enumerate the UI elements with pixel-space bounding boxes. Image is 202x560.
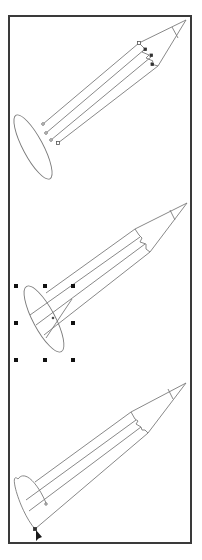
anchor-point[interactable] <box>138 42 141 45</box>
anchor-point[interactable] <box>57 142 60 145</box>
pencil-zigzag-edge <box>135 229 150 252</box>
pencil-body-line-3 <box>36 244 145 325</box>
ellipse-center-point[interactable] <box>52 317 54 319</box>
anchor-point[interactable] <box>50 139 53 142</box>
anchor-point-selected[interactable] <box>150 54 153 57</box>
pencil-body-line-3 <box>51 57 151 140</box>
pencil-body-line-2 <box>46 49 145 133</box>
selection-handle-bottom-right[interactable] <box>71 358 75 362</box>
pencil-lead-line <box>172 27 178 38</box>
pencil-tip-outline <box>135 203 187 252</box>
selection-handle-top-center[interactable] <box>43 284 47 288</box>
anchor-point-selected[interactable] <box>144 48 147 51</box>
trimmed-ellipse-path[interactable] <box>14 476 46 529</box>
selection-handle-bottom-center[interactable] <box>43 358 47 362</box>
anchor-point[interactable] <box>45 132 48 135</box>
anchor-point[interactable] <box>45 503 47 505</box>
drawing-canvas[interactable] <box>0 0 202 560</box>
pencil-step-3[interactable] <box>14 383 186 541</box>
anchor-point-selected[interactable] <box>151 63 154 66</box>
direct-selection-cursor-icon <box>36 530 42 541</box>
anchor-point-selected[interactable] <box>34 528 37 531</box>
anchor-point[interactable] <box>42 123 45 126</box>
pencil-body-line-3 <box>29 427 141 511</box>
pencil-zigzag-edge <box>139 43 158 66</box>
pencil-body-line-5 <box>46 299 72 338</box>
ellipse-shape[interactable] <box>7 111 58 184</box>
pencil-body-line-4 <box>58 66 158 143</box>
pencil-body-line-1 <box>35 412 131 482</box>
pencil-body-line-1 <box>43 43 139 124</box>
selection-handle-bottom-left[interactable] <box>14 358 18 362</box>
selection-handle-middle-right[interactable] <box>71 321 75 325</box>
pencil-zigzag-edge <box>131 412 148 433</box>
pencil-tip-outline <box>139 20 186 66</box>
selection-handle-top-right[interactable] <box>71 284 75 288</box>
pencil-step-2[interactable] <box>14 203 187 362</box>
pencil-step-1[interactable] <box>7 20 186 183</box>
selection-handle-top-left[interactable] <box>14 284 18 288</box>
pencil-body-line-2 <box>26 420 136 500</box>
pencil-lead-line <box>170 210 175 220</box>
selection-handle-middle-left[interactable] <box>14 321 18 325</box>
